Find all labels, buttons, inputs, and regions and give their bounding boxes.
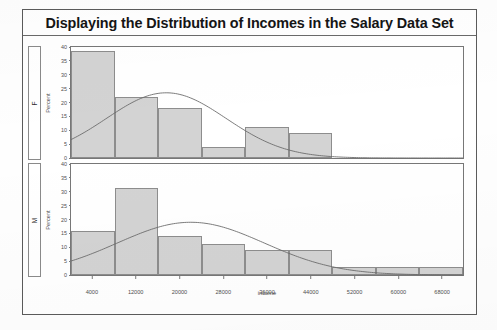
histogram-bar <box>158 236 202 275</box>
x-axis-tick-mark <box>179 276 180 279</box>
chart-title-band: Displaying the Distribution of Incomes i… <box>23 10 476 36</box>
y-axis-tick-mark <box>69 191 72 192</box>
x-axis-tick-mark <box>223 276 224 279</box>
y-axis-tick-label: 10 <box>61 244 67 250</box>
y-axis-tick: 10 <box>61 244 71 250</box>
y-axis-tick-label: 10 <box>61 127 67 133</box>
y-axis-tick: 10 <box>61 127 71 133</box>
panel-row-label-male-text: M <box>31 217 38 222</box>
y-axis-tick: 20 <box>61 217 71 223</box>
x-axis-tick-mark <box>310 276 311 279</box>
y-axis-title-male-text: Percent <box>45 210 51 229</box>
histogram-bar <box>245 250 289 275</box>
plot-area-male: 0510152025303540 <box>71 164 463 275</box>
histogram-bar <box>289 250 333 275</box>
x-axis-tick-mark <box>354 276 355 279</box>
y-axis-tick-label: 35 <box>61 175 67 181</box>
y-axis-tick: 30 <box>61 72 71 78</box>
y-axis-tick-label: 25 <box>61 203 67 209</box>
y-axis-tick: 20 <box>61 100 71 106</box>
y-axis-tick-mark <box>69 205 72 206</box>
y-axis-tick: 15 <box>61 113 71 119</box>
y-axis-tick-label: 25 <box>61 86 67 92</box>
y-axis-tick-label: 30 <box>61 189 67 195</box>
x-axis-tick-mark <box>442 276 443 279</box>
panel-row-label-male: M <box>28 163 41 277</box>
y-axis-title-female: Percent <box>43 46 53 160</box>
y-axis-tick-label: 20 <box>61 100 67 106</box>
y-axis-tick-label: 40 <box>61 161 67 167</box>
x-axis: 4000120002000028000360004400052000600006… <box>70 276 464 290</box>
histogram-bar <box>419 267 463 275</box>
y-axis-tick-mark <box>69 47 72 48</box>
y-axis-tick-label: 40 <box>61 44 67 50</box>
y-axis-tick: 35 <box>61 175 71 181</box>
histogram-bar <box>158 108 202 158</box>
y-axis-tick: 30 <box>61 189 71 195</box>
histogram-bar <box>71 231 115 275</box>
x-axis-tick-mark <box>135 276 136 279</box>
y-axis-tick: 40 <box>61 44 71 50</box>
y-axis-tick: 15 <box>61 230 71 236</box>
histogram-bar <box>115 188 159 275</box>
histogram-panel-female: 0510152025303540 <box>70 46 464 159</box>
y-axis-tick-label: 35 <box>61 58 67 64</box>
y-axis-title-male: Percent <box>43 163 53 277</box>
plot-area-female: 0510152025303540 <box>71 47 463 158</box>
y-axis-tick-label: 20 <box>61 217 67 223</box>
x-axis-tick-mark <box>91 276 92 279</box>
y-axis-tick: 40 <box>61 161 71 167</box>
y-axis-tick: 35 <box>61 58 71 64</box>
y-axis-tick-mark <box>69 219 72 220</box>
histogram-panel-male: 0510152025303540 <box>70 163 464 276</box>
panel-row-label-female-text: F <box>31 101 38 105</box>
y-axis-tick-label: 0 <box>64 272 67 278</box>
y-axis-tick-label: 5 <box>64 141 67 147</box>
y-axis-tick: 25 <box>61 86 71 92</box>
histogram-bar <box>332 267 376 275</box>
y-axis-tick: 25 <box>61 203 71 209</box>
y-axis-tick-label: 15 <box>61 230 67 236</box>
histogram-bar <box>202 147 246 158</box>
y-axis-tick-label: 15 <box>61 113 67 119</box>
page-title: Displaying the Distribution of Incomes i… <box>45 15 453 31</box>
panel-row-label-female: F <box>28 46 41 160</box>
histogram-bar <box>376 267 420 275</box>
x-axis-tick-mark <box>267 276 268 279</box>
x-axis-title: income <box>70 290 464 296</box>
histogram-bar <box>115 97 159 158</box>
histogram-bar <box>245 127 289 158</box>
scanned-page: Displaying the Distribution of Incomes i… <box>0 0 497 330</box>
histogram-bar <box>289 133 333 158</box>
y-axis-tick: 5 <box>64 141 71 147</box>
histogram-bar <box>71 51 115 158</box>
y-axis-tick-mark <box>69 164 72 165</box>
x-axis-tick-mark <box>398 276 399 279</box>
y-axis-tick-label: 5 <box>64 258 67 264</box>
y-axis-tick: 5 <box>64 258 71 264</box>
histogram-bar <box>202 244 246 275</box>
y-axis-title-female-text: Percent <box>45 93 51 112</box>
y-axis-tick-mark <box>69 177 72 178</box>
y-axis-tick-label: 30 <box>61 72 67 78</box>
